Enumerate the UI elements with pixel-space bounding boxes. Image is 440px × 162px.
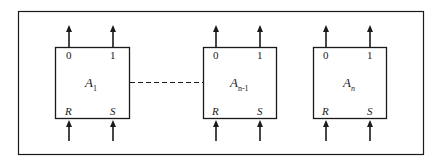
a1-output-1-label: 1 — [110, 50, 116, 61]
a1-block-name: A1 — [85, 76, 97, 95]
an-input-s-label: S — [367, 106, 373, 117]
an-1-output-1-label: 1 — [257, 50, 263, 61]
an-output-0-label: 0 — [323, 50, 329, 61]
an-1-output-0-label: 0 — [213, 50, 219, 61]
outer-frame — [19, 12, 424, 155]
an-output-1-label: 1 — [367, 50, 373, 61]
arrows — [66, 25, 373, 141]
an-1-input-s-label: S — [257, 106, 263, 117]
an-1-block-name: An-1 — [230, 76, 249, 95]
a1-output-0-label: 0 — [66, 50, 72, 61]
an-input-r-label: R — [322, 106, 329, 117]
diagram-canvas — [0, 0, 440, 162]
a1-input-r-label: R — [65, 106, 72, 117]
an-block-name: An — [343, 76, 355, 95]
a1-input-s-label: S — [110, 106, 116, 117]
an-1-input-r-label: R — [212, 106, 219, 117]
